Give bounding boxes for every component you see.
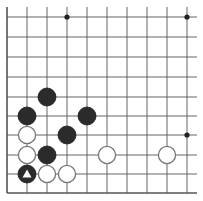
white-stone[interactable] bbox=[58, 165, 75, 182]
white-stone[interactable] bbox=[38, 165, 55, 182]
white-stone[interactable] bbox=[98, 146, 115, 163]
black-stone[interactable] bbox=[38, 146, 56, 164]
star-point bbox=[184, 14, 189, 19]
black-stone[interactable] bbox=[38, 88, 56, 106]
black-stone[interactable] bbox=[78, 107, 96, 125]
white-stone[interactable] bbox=[18, 146, 35, 163]
black-stone[interactable] bbox=[18, 107, 36, 125]
star-point bbox=[184, 132, 189, 137]
go-board[interactable] bbox=[0, 0, 203, 201]
go-board-canvas[interactable] bbox=[0, 0, 203, 201]
white-stone[interactable] bbox=[18, 126, 35, 143]
white-stone[interactable] bbox=[158, 146, 175, 163]
black-stone[interactable] bbox=[58, 126, 76, 144]
star-point bbox=[64, 14, 69, 19]
